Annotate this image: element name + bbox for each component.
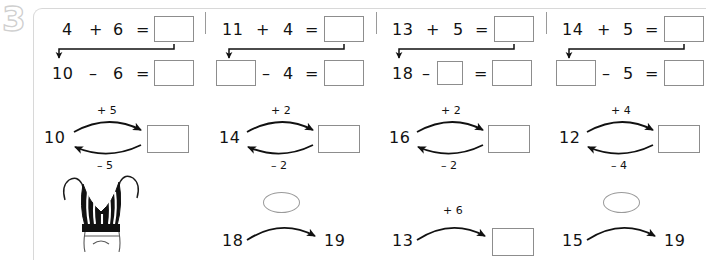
col-4-bottom-start: 15	[562, 233, 583, 249]
col-3-sub-operand-a: 18	[392, 66, 413, 82]
col-3-add-operand-b: 5	[453, 22, 464, 38]
col-1-sub-answer-box[interactable]	[154, 60, 194, 86]
col-4-sub-operand-b: 5	[623, 66, 634, 82]
col-3-sub-minus-sign: –	[422, 66, 430, 82]
col-2-bottom-start: 18	[222, 233, 243, 249]
col-3-bottom-forward-label: + 6	[443, 205, 463, 216]
col-2-add-answer-box[interactable]	[324, 16, 364, 42]
col-3-add-plus-sign: +	[426, 22, 439, 38]
col-2-add-operand-a: 11	[222, 22, 243, 38]
col-4-loop-back-label: – 4	[611, 160, 627, 171]
col-3-loop-start: 16	[389, 130, 410, 146]
col-3-sub-equals: =	[474, 66, 487, 82]
column-divider-2	[376, 12, 377, 34]
col-1-add-equals: =	[136, 22, 149, 38]
col-2-add-equals: =	[305, 22, 318, 38]
col-2-sub-operand-b: 4	[283, 66, 294, 82]
col-4-sub-operand-box[interactable]	[556, 60, 596, 86]
col-4-loop-start: 12	[559, 130, 580, 146]
col-3-bottom-start: 13	[392, 233, 413, 249]
col-1-loop-forward-label: + 5	[97, 105, 117, 116]
col-4-bottom-oval[interactable]	[603, 192, 640, 213]
col-3-loop-forward-label: + 2	[441, 105, 461, 116]
exercise-number: 3	[2, 2, 26, 36]
col-3-sub-answer-box[interactable]	[492, 60, 532, 86]
col-2-bottom-oval[interactable]	[263, 192, 300, 213]
col-3-add-equals: =	[475, 22, 488, 38]
col-4-add-equals: =	[645, 22, 658, 38]
col-2-loop-back-label: – 2	[271, 160, 287, 171]
col-3-add-answer-box[interactable]	[494, 16, 534, 42]
column-divider-1	[205, 12, 206, 34]
col-1-sub-operand-a: 10	[52, 66, 73, 82]
col-1-loop-start: 10	[44, 130, 65, 146]
col-3-add-operand-a: 13	[392, 22, 413, 38]
col-3-loop-answer-box[interactable]	[488, 125, 530, 153]
col-4-sub-answer-box[interactable]	[664, 60, 704, 86]
striped-mittens-illustration	[55, 172, 147, 252]
col-4-loop-forward-label: + 4	[611, 105, 631, 116]
col-4-loop-answer-box[interactable]	[658, 125, 700, 153]
col-1-loop-back-label: – 5	[97, 160, 113, 171]
col-4-bottom-end: 19	[664, 233, 685, 249]
col-2-sub-equals: =	[305, 66, 318, 82]
col-4-sub-minus-sign: –	[602, 66, 610, 82]
col-1-add-answer-box[interactable]	[154, 16, 194, 42]
col-2-sub-answer-box[interactable]	[324, 60, 364, 86]
col-2-sub-minus-sign: –	[262, 66, 270, 82]
col-3-loop-back-label: – 2	[441, 160, 457, 171]
col-3-bottom-answer-box[interactable]	[492, 228, 534, 256]
column-divider-3	[546, 12, 547, 34]
col-2-loop-start: 14	[219, 130, 240, 146]
col-1-add-operand-a: 4	[62, 22, 73, 38]
col-1-sub-minus-sign: –	[89, 66, 97, 82]
col-1-add-operand-b: 6	[113, 22, 124, 38]
col-1-sub-operand-b: 6	[113, 66, 124, 82]
col-2-loop-forward-label: + 2	[271, 105, 291, 116]
col-4-add-plus-sign: +	[597, 22, 610, 38]
col-2-sub-operand-box[interactable]	[216, 60, 256, 86]
col-3-sub-operand-box[interactable]	[437, 61, 463, 85]
col-2-bottom-end: 19	[324, 233, 345, 249]
col-1-add-plus-sign: +	[89, 22, 102, 38]
col-4-add-operand-b: 5	[623, 22, 634, 38]
col-2-add-plus-sign: +	[256, 22, 269, 38]
col-1-sub-equals: =	[136, 66, 149, 82]
col-4-sub-equals: =	[645, 66, 658, 82]
col-4-add-operand-a: 14	[562, 22, 583, 38]
col-2-add-operand-b: 4	[283, 22, 294, 38]
col-1-loop-answer-box[interactable]	[147, 125, 189, 153]
col-2-loop-answer-box[interactable]	[318, 125, 360, 153]
col-4-add-answer-box[interactable]	[664, 16, 704, 42]
